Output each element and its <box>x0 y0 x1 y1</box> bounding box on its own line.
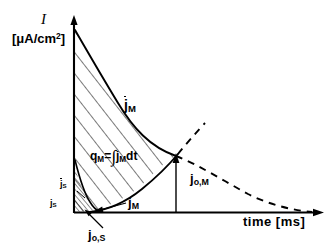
y-axis-units-close: ] <box>61 31 65 46</box>
label-jm-lower: jM <box>128 196 139 211</box>
label-charge-equation: qM=∫jMdt <box>90 148 137 165</box>
label-js-bar-base: j <box>60 180 63 189</box>
x-axis-title: time [ms] <box>243 215 305 228</box>
label-jom: jo,M <box>190 172 209 187</box>
figure-root: I [μA/cm2] time [ms] jM qM=∫jMdt jM jo,M… <box>0 0 336 249</box>
label-jos: jo,S <box>88 228 105 243</box>
jom-arrow <box>173 153 180 212</box>
label-js-bar: jS <box>60 180 67 189</box>
label-js-lower: jS <box>50 199 57 208</box>
y-axis-units: [μA/cm2] <box>12 32 65 45</box>
charge-eq-differential: dt <box>126 149 137 163</box>
label-jm-bar: jM <box>124 98 136 114</box>
label-jm-bar-sub: M <box>128 103 136 114</box>
y-axis-arrowhead <box>70 15 77 25</box>
label-jm-lower-sub: M <box>132 201 139 211</box>
label-jos-sub: o,S <box>92 233 106 243</box>
curve-jm-rise-dashed-extension <box>178 123 205 154</box>
label-jm-bar-base: j <box>124 98 128 112</box>
x-axis-arrowhead <box>313 209 324 217</box>
label-jom-sub: o,M <box>194 177 209 187</box>
y-axis-title: I <box>41 12 46 27</box>
y-axis-units-text: [μA/cm <box>12 31 56 46</box>
label-js-lower-sub: S <box>53 201 57 208</box>
label-js-bar-sub: S <box>63 182 67 189</box>
